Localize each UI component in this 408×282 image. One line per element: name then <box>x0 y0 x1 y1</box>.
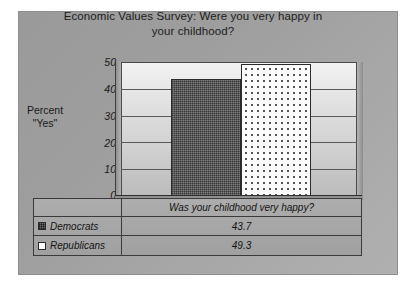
y-tick-40: 40 <box>86 83 116 95</box>
value-democrats: 43.7 <box>122 217 361 235</box>
legend-item-democrats[interactable]: Democrats <box>34 217 122 235</box>
table-row[interactable]: Democrats 43.7 <box>34 217 361 236</box>
legend-swatch-icon-republicans <box>38 242 46 250</box>
chart-screenshot: Economic Values Survey: Were you very ha… <box>0 0 408 282</box>
bar-republicans[interactable] <box>241 64 311 196</box>
y-tick-20: 20 <box>86 137 116 149</box>
value-republicans: 49.3 <box>122 236 361 255</box>
y-axis-label-line-1: Percent <box>12 104 78 117</box>
y-tick-50: 50 <box>86 56 116 68</box>
x-axis-category-row: Was your childhood very happy? <box>34 199 361 217</box>
y-axis-label-line-2: "Yes" <box>12 117 78 130</box>
y-tick-30: 30 <box>86 110 116 122</box>
x-axis-category-label: Was your childhood very happy? <box>122 199 361 216</box>
legend-swatch-icon-democrats <box>38 222 46 230</box>
legend-item-republicans[interactable]: Republicans <box>34 236 122 255</box>
legend-label-republicans: Republicans <box>50 240 105 251</box>
bar-democrats[interactable] <box>171 79 241 196</box>
x-axis-row-spacer <box>34 199 122 216</box>
plot-area <box>121 62 357 196</box>
legend-data-table: Was your childhood very happy? Democrats… <box>33 198 362 256</box>
table-row[interactable]: Republicans 49.3 <box>34 236 361 255</box>
y-axis-label: Percent "Yes" <box>12 104 78 130</box>
legend-label-democrats: Democrats <box>50 221 98 232</box>
y-tick-10: 10 <box>86 163 116 175</box>
plot-right-wall <box>357 62 363 200</box>
